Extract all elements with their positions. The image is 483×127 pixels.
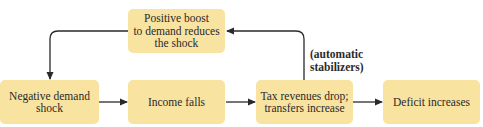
node-line: Income falls — [148, 96, 205, 109]
node-negative-shock: Negative demand shock — [0, 80, 99, 124]
node-line: Deficit increases — [393, 96, 470, 109]
node-income-falls: Income falls — [128, 80, 225, 124]
node-tax-revenues: Tax revenues drop; transfers increase — [256, 80, 353, 124]
arrow-boost-to-shock — [50, 31, 128, 79]
annotation-line: stabilizers) — [310, 61, 364, 74]
node-line: Positive boost — [133, 12, 219, 25]
node-line: Negative demand — [9, 90, 90, 103]
annotation-automatic-stabilizers: (automatic stabilizers) — [310, 48, 364, 73]
node-line: the shock — [133, 37, 219, 50]
node-line: transfers increase — [261, 102, 349, 115]
node-line: shock — [9, 102, 90, 115]
annotation-line: (automatic — [310, 48, 364, 61]
node-positive-boost: Positive boost to demand reduces the sho… — [128, 9, 225, 53]
node-deficit: Deficit increases — [383, 80, 480, 124]
arrow-tax-to-boost — [227, 31, 304, 80]
node-line: Tax revenues drop; — [261, 90, 349, 103]
node-line: to demand reduces — [133, 25, 219, 38]
